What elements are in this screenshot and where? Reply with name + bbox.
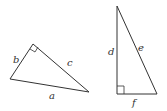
side-label-d: d: [108, 46, 114, 57]
side-label-c: c: [67, 57, 73, 68]
triangle-1: b c a: [10, 44, 89, 101]
side-label-e: e: [138, 42, 144, 53]
right-angle-marker-2: [117, 86, 124, 94]
side-label-f: f: [131, 97, 138, 108]
triangle-2: d e f: [108, 6, 157, 108]
side-label-a: a: [49, 90, 55, 101]
diagram-canvas: b c a d e f: [0, 0, 167, 111]
side-label-b: b: [13, 54, 19, 65]
